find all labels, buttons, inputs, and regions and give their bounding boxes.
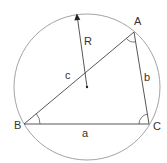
vertex-label-B: B bbox=[14, 119, 21, 131]
angle-arc-B bbox=[36, 114, 40, 124]
radius-line bbox=[78, 19, 87, 87]
radius-label-R: R bbox=[84, 35, 92, 47]
angle-arc-A bbox=[126, 38, 135, 42]
side-label-b: b bbox=[144, 71, 150, 83]
circumcircle-diagram: A B C a b c R bbox=[0, 0, 167, 163]
vertex-label-A: A bbox=[134, 15, 142, 27]
side-label-c: c bbox=[65, 69, 71, 81]
angle-arc-C bbox=[139, 114, 147, 124]
vertex-label-C: C bbox=[153, 120, 161, 132]
side-c bbox=[24, 32, 134, 124]
center-point bbox=[86, 86, 88, 88]
side-label-a: a bbox=[82, 127, 89, 139]
